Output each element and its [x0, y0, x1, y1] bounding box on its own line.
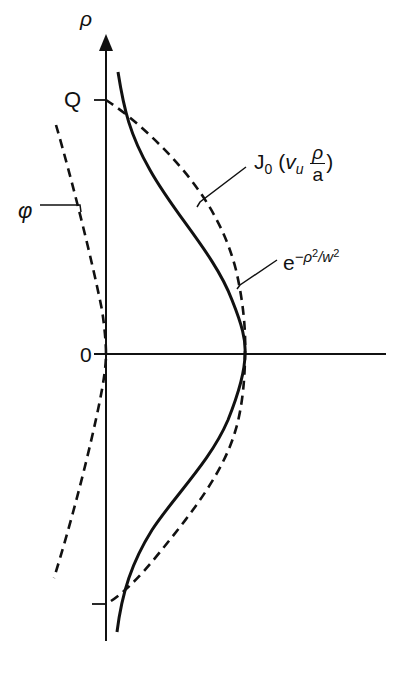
bessel-label-v: v [285, 150, 296, 173]
phi-leader-line [40, 205, 81, 212]
gaussian-label-exponent: −ρ2/w2 [295, 248, 340, 265]
exp-pow2: 2 [333, 247, 339, 259]
bessel-label-main: J [254, 150, 265, 173]
bessel-label-close: ) [326, 150, 333, 173]
gaussian-curve [117, 72, 245, 632]
bessel-label-sub: 0 [265, 161, 273, 177]
exp-prefix: −ρ [295, 248, 312, 265]
diagram-canvas [0, 0, 404, 673]
fraction-numerator: ρ [310, 143, 325, 164]
bessel-label: J0 (vu ρa) [254, 143, 333, 184]
exp-mid: /w [318, 248, 333, 265]
fraction-denominator: a [310, 164, 325, 184]
bessel-label-fraction: ρa [310, 143, 325, 184]
tick-label-Q: Q [64, 89, 81, 111]
origin-label: 0 [80, 344, 92, 365]
rho-axis-arrow-icon [99, 34, 113, 51]
bessel-curve [106, 100, 245, 604]
rho-axis-label: ρ [80, 8, 92, 29]
gaussian-leader-line [237, 260, 277, 289]
gaussian-label-base: e [283, 251, 295, 274]
gaussian-label: e−ρ2/w2 [283, 248, 339, 273]
phase-label: φ [18, 200, 32, 222]
bessel-label-u: u [296, 161, 304, 177]
